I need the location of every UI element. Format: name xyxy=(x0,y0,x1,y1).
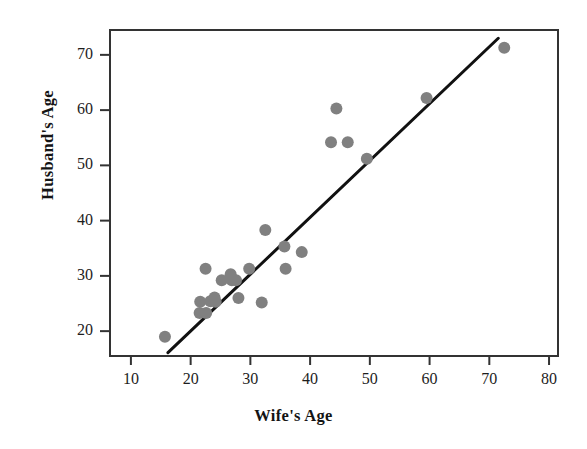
x-tick-label-20: 20 xyxy=(171,370,211,388)
data-point xyxy=(280,263,292,275)
y-tick-label-20: 20 xyxy=(53,321,93,339)
y-axis-title-text: Husband's Age xyxy=(38,90,58,200)
data-point xyxy=(278,241,290,253)
data-point xyxy=(361,153,373,165)
data-point xyxy=(296,246,308,258)
x-tick-label-30: 30 xyxy=(230,370,270,388)
data-point xyxy=(325,136,337,148)
data-point xyxy=(421,92,433,104)
x-tick-label-50: 50 xyxy=(350,370,390,388)
data-point xyxy=(330,102,342,114)
data-point xyxy=(230,274,242,286)
x-tick-label-40: 40 xyxy=(290,370,330,388)
data-point xyxy=(200,307,212,319)
data-point xyxy=(159,331,171,343)
x-tick-label-80: 80 xyxy=(529,370,569,388)
y-axis-title: Husband's Age xyxy=(0,0,158,290)
axis-ticks xyxy=(100,55,549,365)
x-axis-title-text: Wife's Age xyxy=(254,406,332,425)
data-point xyxy=(200,263,212,275)
data-point xyxy=(209,291,221,303)
x-axis-title: Wife's Age xyxy=(0,406,587,426)
x-tick-label-60: 60 xyxy=(410,370,450,388)
data-point xyxy=(243,263,255,275)
data-point xyxy=(259,224,271,236)
scatter-plot-figure: 1020304050607080203040506070 Wife's Age … xyxy=(0,0,587,449)
data-point xyxy=(256,296,268,308)
x-tick-label-10: 10 xyxy=(111,370,151,388)
x-tick-label-70: 70 xyxy=(469,370,509,388)
data-point xyxy=(498,42,510,54)
data-point xyxy=(342,136,354,148)
data-point xyxy=(232,292,244,304)
